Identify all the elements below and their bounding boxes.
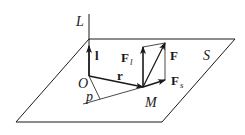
label-fs-sub: s — [180, 80, 184, 90]
label-force-fl: Fl — [121, 51, 132, 64]
label-plane-s: S — [203, 49, 210, 63]
label-axis-l: L — [76, 15, 84, 29]
label-radius-r: r — [117, 69, 123, 82]
label-fl-base: F — [121, 50, 129, 65]
label-force-fs: Fs — [171, 74, 183, 87]
label-point-m: M — [145, 96, 157, 110]
construction-line-top — [143, 43, 165, 47]
label-fs-base: F — [171, 73, 179, 88]
label-unit-vector-l: l — [95, 49, 99, 62]
radius-vector-r — [89, 76, 143, 87]
label-force-f: F — [170, 49, 178, 62]
label-distance-p: p — [86, 90, 93, 104]
